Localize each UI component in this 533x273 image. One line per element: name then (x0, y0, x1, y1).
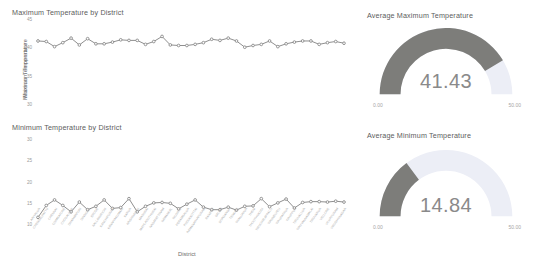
data-point-marker[interactable] (103, 199, 106, 202)
data-point-marker[interactable] (161, 35, 164, 38)
data-point-marker[interactable] (243, 46, 246, 49)
data-point-marker[interactable] (161, 201, 164, 204)
data-point-marker[interactable] (202, 41, 205, 44)
x-axis-category-labels: ARIYALURCHENGALPATTUCHENNAICOIMBATORECUD… (38, 205, 344, 245)
data-point-marker[interactable] (37, 40, 40, 43)
data-point-marker[interactable] (45, 40, 48, 43)
panel-average-minimum-temperature: Average Minimum Temperature 14.84 0.00 5… (355, 120, 533, 245)
data-point-marker[interactable] (318, 43, 321, 46)
data-point-marker[interactable] (128, 39, 131, 42)
data-point-marker[interactable] (334, 200, 337, 203)
data-point-marker[interactable] (310, 200, 313, 203)
data-point-marker[interactable] (343, 42, 346, 45)
gauge-max-label-average-minimum: 50.00 (508, 224, 521, 230)
y-axis-tick-label: 30 (10, 137, 32, 142)
data-point-marker[interactable] (152, 202, 155, 205)
dashboard: Maximum Temperature by District Maximum … (0, 0, 533, 273)
data-point-marker[interactable] (78, 44, 81, 47)
line-plot-maximum-temperature (38, 20, 344, 105)
data-point-marker[interactable] (310, 40, 313, 43)
data-point-marker[interactable] (227, 37, 230, 40)
data-point-marker[interactable] (53, 199, 56, 202)
y-axis-tick-label: 40 (10, 45, 32, 50)
data-point-marker[interactable] (301, 40, 304, 43)
data-point-marker[interactable] (293, 41, 296, 44)
data-point-marker[interactable] (276, 202, 279, 205)
y-axis-title-minimum-temperature: Minimum Temperature (22, 43, 28, 100)
data-point-marker[interactable] (285, 42, 288, 45)
data-point-marker[interactable] (219, 39, 222, 42)
data-point-marker[interactable] (86, 37, 89, 40)
data-point-marker[interactable] (301, 201, 304, 204)
data-point-marker[interactable] (326, 41, 329, 44)
panel-title-maximum-temperature: Maximum Temperature by District (12, 8, 124, 17)
gauge-min-label-average-minimum: 0.00 (373, 224, 383, 230)
panel-title-minimum-temperature: Minimum Temperature by District (12, 123, 122, 132)
data-point-marker[interactable] (111, 41, 114, 44)
gauge-average-maximum-temperature: 41.43 0.00 50.00 (373, 28, 519, 100)
x-axis-title-district: District (178, 251, 196, 257)
gauge-average-minimum-temperature: 14.84 0.00 50.00 (373, 150, 519, 222)
data-point-marker[interactable] (194, 43, 197, 46)
data-point-marker[interactable] (177, 44, 180, 47)
y-axis-tick-label: 15 (10, 201, 32, 206)
data-point-marker[interactable] (235, 40, 238, 43)
data-point-marker[interactable] (252, 44, 255, 47)
panel-minimum-temperature-by-district: Minimum Temperature by District (0, 118, 352, 273)
data-point-marker[interactable] (152, 40, 155, 43)
data-point-marker[interactable] (186, 44, 189, 47)
y-axis-tick-label: 20 (10, 180, 32, 185)
data-point-marker[interactable] (78, 201, 81, 204)
panel-title-average-minimum-temperature: Average Minimum Temperature (367, 131, 471, 140)
gauge-value-average-maximum: 41.43 (373, 70, 519, 93)
panel-maximum-temperature-by-district: Maximum Temperature by District Maximum … (0, 0, 352, 120)
data-point-marker[interactable] (260, 197, 263, 200)
data-point-marker[interactable] (61, 41, 64, 44)
data-point-marker[interactable] (169, 44, 172, 47)
data-point-marker[interactable] (334, 40, 337, 43)
data-point-marker[interactable] (210, 38, 213, 41)
data-point-marker[interactable] (326, 201, 329, 204)
data-point-marker[interactable] (260, 43, 263, 46)
y-axis-tick-label: 30 (10, 102, 32, 107)
data-point-marker[interactable] (343, 201, 346, 204)
data-point-marker[interactable] (144, 43, 147, 46)
data-point-marker[interactable] (276, 45, 279, 48)
gauge-value-average-minimum: 14.84 (373, 194, 519, 217)
data-point-marker[interactable] (95, 42, 98, 45)
data-point-marker[interactable] (70, 37, 73, 40)
y-axis-tick-label: 45 (10, 17, 32, 22)
data-point-marker[interactable] (194, 199, 197, 202)
data-point-marker[interactable] (285, 198, 288, 201)
panel-title-average-maximum-temperature: Average Maximum Temperature (367, 11, 473, 20)
data-point-marker[interactable] (119, 38, 122, 41)
data-point-marker[interactable] (318, 200, 321, 203)
series-line (38, 36, 344, 47)
y-axis-tick-label: 35 (10, 74, 32, 79)
gauge-max-label-average-maximum: 50.00 (508, 102, 521, 108)
data-point-marker[interactable] (103, 42, 106, 45)
y-axis-tick-label: 25 (10, 158, 32, 163)
data-point-marker[interactable] (128, 197, 131, 200)
gauge-min-label-average-maximum: 0.00 (373, 102, 383, 108)
data-point-marker[interactable] (53, 45, 56, 48)
panel-average-maximum-temperature: Average Maximum Temperature 41.43 0.00 5… (355, 0, 533, 120)
data-point-marker[interactable] (268, 40, 271, 43)
data-point-marker[interactable] (136, 39, 139, 42)
